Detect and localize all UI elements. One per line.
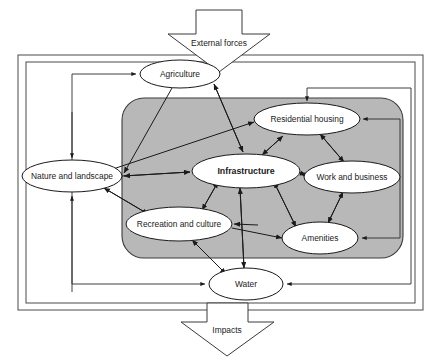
node-label-recreation-and-culture: Recreation and culture <box>137 219 222 229</box>
node-water[interactable]: Water <box>209 268 283 300</box>
node-label-amenities: Amenities <box>302 233 339 243</box>
node-label-residential-housing: Residential housing <box>270 114 343 124</box>
node-residential-housing[interactable]: Residential housing <box>254 103 360 135</box>
node-label-work-and-business: Work and business <box>316 172 387 182</box>
node-label-water: Water <box>235 279 257 289</box>
node-nature-and-landscape[interactable]: Nature and landscape <box>22 160 122 192</box>
node-label-infrastructure: Infrastructure <box>217 166 274 176</box>
node-agriculture[interactable]: Agriculture <box>140 60 220 88</box>
external-forces-label: External forces <box>191 38 247 48</box>
node-recreation-and-culture[interactable]: Recreation and culture <box>126 207 232 241</box>
node-amenities[interactable]: Amenities <box>282 222 358 254</box>
diagram-root: External forces <box>0 0 437 361</box>
impacts-arrow: Impacts <box>181 303 274 356</box>
node-label-agriculture: Agriculture <box>160 69 200 79</box>
node-label-nature: Nature and landscape <box>31 171 113 181</box>
impacts-label: Impacts <box>212 325 241 335</box>
node-work-and-business[interactable]: Work and business <box>304 161 400 193</box>
node-infrastructure[interactable]: Infrastructure <box>192 154 300 188</box>
